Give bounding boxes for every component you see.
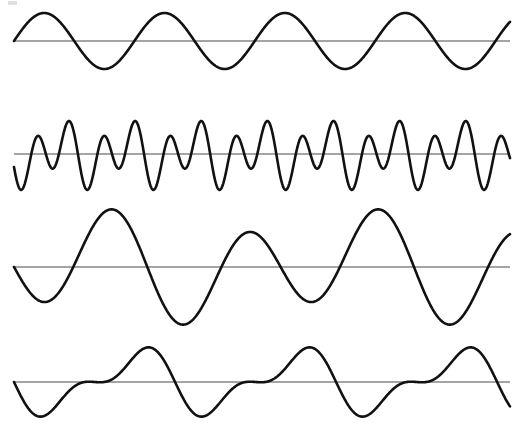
axis-lines-group <box>14 41 510 382</box>
waveform-canvas <box>0 0 521 424</box>
waveform-figure <box>0 0 521 424</box>
scan-speck-top-left-icon <box>8 1 17 5</box>
wave-2-high-frequency-beat <box>14 121 510 190</box>
wave-paths-group <box>14 13 510 417</box>
